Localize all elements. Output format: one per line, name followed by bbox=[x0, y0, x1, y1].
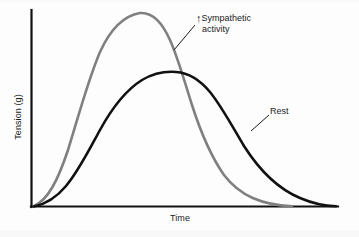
annotation-rest: Rest bbox=[270, 106, 289, 117]
leader-line-rest bbox=[251, 115, 269, 131]
y-axis-label: Tension (g) bbox=[13, 82, 23, 152]
leader-line-sympathetic bbox=[174, 25, 195, 50]
annotation-sympathetic-line1: Sympathetic bbox=[202, 13, 252, 23]
figure-container: Tension (g) Time ↑Sympathetic activity R… bbox=[0, 0, 359, 237]
axis-lines bbox=[31, 10, 338, 207]
chart-plot-area bbox=[0, 0, 359, 237]
annotation-sympathetic-line2: activity bbox=[196, 24, 251, 35]
annotation-sympathetic-activity: ↑Sympathetic activity bbox=[196, 13, 251, 34]
x-axis-label: Time bbox=[140, 213, 220, 223]
curve-rest bbox=[34, 72, 336, 207]
